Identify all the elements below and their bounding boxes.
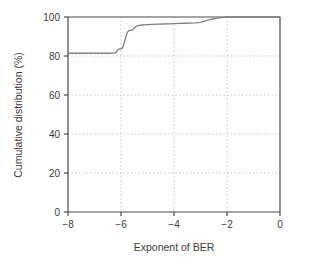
y-tick-label: 60	[49, 90, 61, 101]
y-tick-label: 100	[43, 12, 60, 23]
x-tick-label: −8	[62, 219, 74, 230]
cumulative-distribution-chart: −8−6−4−20020406080100 Exponent of BER Cu…	[0, 0, 310, 266]
x-tick-label: −4	[168, 219, 180, 230]
x-tick-label: 0	[277, 219, 283, 230]
y-axis-title: Cumulative distribution (%)	[12, 52, 24, 177]
x-tick-label: −2	[221, 219, 233, 230]
y-tick-label: 0	[54, 207, 60, 218]
y-tick-label: 20	[49, 168, 61, 179]
y-tick-label: 40	[49, 129, 61, 140]
y-tick-label: 80	[49, 51, 61, 62]
figure-container: −8−6−4−20020406080100 Exponent of BER Cu…	[0, 0, 310, 266]
x-axis-title: Exponent of BER	[134, 241, 215, 253]
x-tick-label: −6	[115, 219, 127, 230]
